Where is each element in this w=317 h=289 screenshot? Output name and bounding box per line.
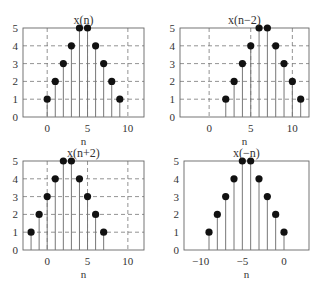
figure: 0123450510x(n)n 0123450510x(n−2)n 012345… (0, 0, 317, 289)
stem-marker (264, 193, 271, 200)
stem-marker (272, 42, 279, 49)
stem-marker (280, 229, 287, 236)
y-tick-label: 1 (174, 226, 180, 238)
stem-marker (222, 96, 229, 103)
stem-marker (44, 96, 51, 103)
stem-marker (100, 60, 107, 67)
subplot-title: x(n+2) (67, 146, 100, 160)
stem-marker (205, 229, 212, 236)
stem-marker (100, 229, 107, 236)
y-tick-label: 3 (13, 191, 19, 203)
stem-marker (239, 60, 246, 67)
x-tick-label: 0 (281, 255, 287, 267)
stem-marker (230, 175, 237, 182)
stem-marker (84, 193, 91, 200)
stem-marker (60, 60, 67, 67)
grid-lines (23, 28, 144, 117)
y-tick-label: 0 (13, 111, 19, 123)
stem-marker (27, 229, 34, 236)
stem-marker (280, 60, 287, 67)
x-tick-labels: 0510 (206, 122, 298, 134)
y-tick-label: 4 (13, 40, 19, 52)
stem-marker (264, 24, 271, 31)
subplot-x-minus-n: 012345−10−50x(−n)n (174, 146, 310, 280)
subplot-title: x(n) (74, 13, 94, 27)
stem-marker (297, 96, 304, 103)
stem-marker (36, 211, 43, 218)
stem-series (205, 157, 287, 250)
subplot-x-n: 0123450510x(n)n (13, 13, 145, 147)
y-tick-label: 0 (174, 244, 180, 256)
stem-marker (222, 193, 229, 200)
y-tick-label: 3 (13, 58, 19, 70)
x-tick-label: −10 (192, 255, 210, 267)
y-tick-label: 2 (13, 208, 19, 220)
y-tick-label: 0 (13, 244, 19, 256)
grid-lines (180, 28, 309, 117)
stem-series (27, 157, 107, 250)
stem-marker (289, 78, 296, 85)
y-tick-label: 2 (170, 75, 176, 87)
y-tick-label: 3 (174, 191, 180, 203)
stem-series (44, 24, 124, 117)
x-tick-label: 10 (122, 255, 134, 267)
stem-marker (230, 78, 237, 85)
stem-marker (272, 211, 279, 218)
y-tick-label: 5 (13, 22, 19, 34)
y-tick-label: 1 (170, 93, 176, 105)
y-tick-labels: 012345 (170, 22, 176, 123)
axes-box (184, 161, 309, 250)
y-tick-label: 4 (13, 173, 19, 185)
y-tick-label: 5 (170, 22, 176, 34)
x-tick-label: −5 (236, 255, 248, 267)
stem-marker (247, 42, 254, 49)
subplot-title: x(−n) (233, 146, 260, 160)
y-tick-labels: 012345 (13, 155, 19, 256)
x-tick-labels: 0510 (44, 122, 133, 134)
stem-marker (92, 42, 99, 49)
axes-box (23, 28, 144, 117)
x-tick-labels: 0510 (44, 255, 133, 267)
y-tick-label: 1 (13, 93, 19, 105)
x-tick-label: 5 (85, 122, 91, 134)
x-axis-label: n (244, 268, 250, 280)
y-tick-label: 3 (170, 58, 176, 70)
y-tick-label: 5 (174, 155, 180, 167)
y-tick-label: 5 (13, 155, 19, 167)
x-tick-label: 10 (287, 122, 299, 134)
stem-marker (52, 175, 59, 182)
axes-box (180, 28, 309, 117)
x-tick-labels: −10−50 (192, 255, 287, 267)
grid-lines (23, 161, 144, 250)
y-tick-label: 4 (174, 173, 180, 185)
subplot-title: x(n−2) (228, 13, 261, 27)
stem-marker (76, 175, 83, 182)
x-axis-label: n (81, 268, 87, 280)
stem-marker (44, 193, 51, 200)
y-tick-label: 1 (13, 226, 19, 238)
y-tick-label: 2 (13, 75, 19, 87)
x-tick-label: 0 (44, 122, 50, 134)
stem-marker (68, 42, 75, 49)
stem-marker (108, 78, 115, 85)
x-tick-label: 5 (85, 255, 91, 267)
stem-marker (214, 211, 221, 218)
stem-marker (116, 96, 123, 103)
x-tick-label: 0 (206, 122, 212, 134)
stem-marker (92, 211, 99, 218)
y-tick-label: 2 (174, 208, 180, 220)
x-tick-label: 10 (122, 122, 134, 134)
y-tick-label: 4 (170, 40, 176, 52)
subplot-x-n-minus-2: 0123450510x(n−2)n (170, 13, 310, 147)
stem-marker (255, 175, 262, 182)
axes-box (23, 161, 144, 250)
y-tick-labels: 012345 (13, 22, 19, 123)
y-tick-label: 0 (170, 111, 176, 123)
stem-marker (52, 78, 59, 85)
stem-marker (60, 157, 67, 164)
y-tick-labels: 012345 (174, 155, 180, 256)
x-tick-label: 0 (44, 255, 50, 267)
x-tick-label: 5 (248, 122, 254, 134)
subplot-x-n-plus-2: 0123450510x(n+2)n (13, 146, 145, 280)
